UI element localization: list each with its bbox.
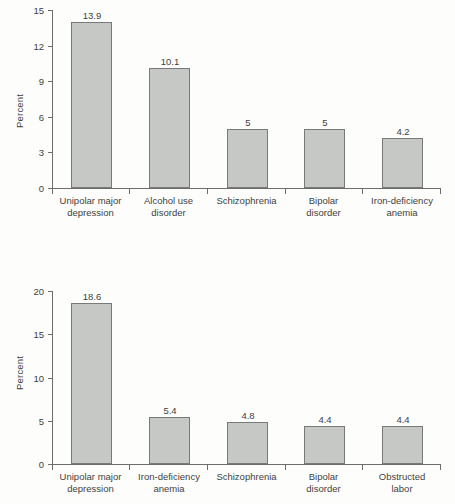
category-label-top-1: Alcohol use disorder [131, 195, 206, 218]
category-label-top-1-line-1: Alcohol use [131, 195, 206, 207]
bar-chart-bottom: Percent 0 5 10 15 20 18.6 5.4 4.8 4.4 [0, 252, 455, 504]
x-tick-top-5 [440, 188, 441, 194]
x-tick-top-1 [129, 188, 130, 194]
category-label-bottom-4-line-2: labor [363, 483, 441, 495]
y-tick-label-top-9: 9 [20, 76, 44, 87]
category-label-bottom-4-line-1: Obstructed [363, 471, 441, 483]
y-tick-top-3 [48, 152, 52, 153]
y-axis-line-top [52, 10, 53, 189]
bar-top-0 [71, 22, 112, 188]
y-tick-label-bottom-0: 0 [20, 459, 44, 470]
bar-top-3 [304, 129, 345, 188]
category-label-bottom-2: Schizophrenia [209, 471, 284, 483]
category-label-top-3-line-1: Bipolar [286, 195, 361, 207]
x-tick-top-4 [362, 188, 363, 194]
y-tick-bottom-10 [48, 378, 52, 379]
y-tick-label-top-0: 0 [20, 183, 44, 194]
y-tick-top-9 [48, 81, 52, 82]
bar-bottom-4 [382, 426, 423, 464]
category-label-top-0: Unipolar major depression [53, 195, 128, 218]
category-label-top-0-line-1: Unipolar major [53, 195, 128, 207]
bar-bottom-0 [71, 303, 112, 464]
y-tick-bottom-15 [48, 334, 52, 335]
y-tick-label-bottom-20: 20 [20, 286, 44, 297]
y-tick-label-bottom-5: 5 [20, 416, 44, 427]
x-tick-bottom-5 [440, 464, 441, 470]
category-label-top-1-line-2: disorder [131, 207, 206, 219]
bar-bottom-2 [227, 422, 268, 464]
category-label-bottom-1: Iron-deficiency anemia [130, 471, 208, 494]
bar-value-top-4: 4.2 [377, 126, 429, 137]
bar-value-bottom-4: 4.4 [377, 414, 429, 425]
category-label-bottom-2-line-1: Schizophrenia [209, 471, 284, 483]
y-tick-label-bottom-10: 10 [20, 373, 44, 384]
y-tick-label-top-15: 15 [20, 5, 44, 16]
x-tick-top-0 [52, 188, 53, 194]
category-label-top-3: Bipolar disorder [286, 195, 361, 218]
category-label-top-3-line-2: disorder [286, 207, 361, 219]
x-axis-line-bottom [52, 464, 440, 465]
category-label-bottom-3-line-2: disorder [286, 483, 361, 495]
y-tick-bottom-5 [48, 421, 52, 422]
category-label-bottom-3-line-1: Bipolar [286, 471, 361, 483]
bar-top-2 [227, 129, 268, 188]
x-tick-bottom-4 [362, 464, 363, 470]
category-label-top-2: Schizophrenia [209, 195, 284, 207]
category-label-bottom-4: Obstructed labor [363, 471, 441, 494]
y-tick-bottom-20 [48, 291, 52, 292]
bar-value-top-2: 5 [222, 117, 274, 128]
y-tick-top-12 [48, 46, 52, 47]
bar-value-bottom-3: 4.4 [299, 414, 351, 425]
y-tick-label-top-6: 6 [20, 112, 44, 123]
bar-value-top-1: 10.1 [144, 56, 196, 67]
bar-bottom-3 [304, 426, 345, 464]
bar-value-top-0: 13.9 [66, 10, 118, 21]
document-page: Percent 0 3 6 9 12 15 13.9 10.1 [0, 0, 455, 504]
category-label-bottom-0: Unipolar major depression [53, 471, 128, 494]
category-label-top-4-line-1: Iron-deficiency [363, 195, 441, 207]
category-label-bottom-3: Bipolar disorder [286, 471, 361, 494]
y-tick-top-6 [48, 117, 52, 118]
bar-top-1 [149, 68, 190, 188]
y-tick-label-bottom-15: 15 [20, 329, 44, 340]
bar-value-bottom-2: 4.8 [222, 410, 274, 421]
x-tick-bottom-0 [52, 464, 53, 470]
category-label-top-4: Iron-deficiency anemia [363, 195, 441, 218]
x-tick-top-2 [207, 188, 208, 194]
x-axis-line-top [52, 188, 440, 189]
bar-top-4 [382, 138, 423, 188]
y-axis-line-bottom [52, 291, 53, 464]
y-tick-label-top-12: 12 [20, 41, 44, 52]
bar-value-bottom-0: 18.6 [66, 291, 118, 302]
y-tick-label-top-3: 3 [20, 147, 44, 158]
x-tick-bottom-1 [129, 464, 130, 470]
y-tick-top-15 [48, 10, 52, 11]
bar-value-bottom-1: 5.4 [144, 405, 196, 416]
x-tick-bottom-3 [285, 464, 286, 470]
category-label-top-2-line-1: Schizophrenia [209, 195, 284, 207]
bar-chart-top: Percent 0 3 6 9 12 15 13.9 10.1 [0, 0, 455, 252]
x-tick-top-3 [285, 188, 286, 194]
category-label-bottom-0-line-2: depression [53, 483, 128, 495]
bar-bottom-1 [149, 417, 190, 464]
category-label-bottom-0-line-1: Unipolar major [53, 471, 128, 483]
category-label-top-4-line-2: anemia [363, 207, 441, 219]
bar-value-top-3: 5 [299, 117, 351, 128]
x-tick-bottom-2 [207, 464, 208, 470]
category-label-top-0-line-2: depression [53, 207, 128, 219]
category-label-bottom-1-line-2: anemia [130, 483, 208, 495]
category-label-bottom-1-line-1: Iron-deficiency [130, 471, 208, 483]
